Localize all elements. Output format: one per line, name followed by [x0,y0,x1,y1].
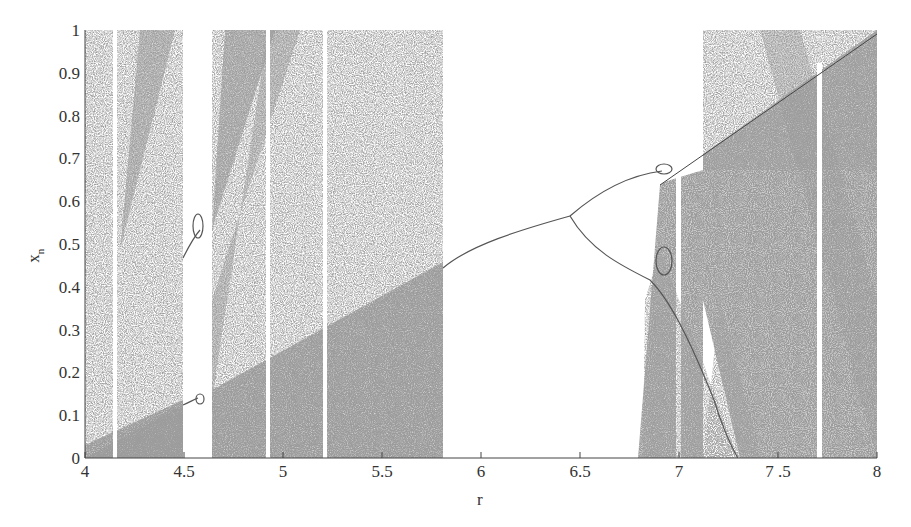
y-tick-label: 0.4 [59,279,80,296]
y-tick-label: 0.7 [59,150,80,167]
y-axis-label: xn [24,249,45,263]
x-tick-label: 5.5 [371,463,392,480]
x-tick-label: 8 [873,463,882,480]
y-tick-label: 0.3 [59,322,80,339]
x-tick-label: 6 [477,463,486,480]
y-tick-label: 0.8 [59,108,80,125]
x-tick-label: 5 [279,463,288,480]
plot-area [85,30,877,458]
y-tick-label: 0 [72,450,81,467]
x-tick-label: 4 [81,463,90,480]
chaotic-band-4-to-4.5 [85,30,183,458]
y-tick-label: 1 [72,22,81,39]
x-axis-label: r [477,490,483,510]
x-tick-label: 6.5 [569,463,590,480]
y-tick-label: 0.9 [59,65,80,82]
y-tick-label: 0.2 [59,364,80,381]
x-tick-label: 4.5 [173,463,194,480]
y-tick-label: 0.5 [59,236,80,253]
bifurcation-chart [0,0,911,527]
x-tick-label: 7 .5 [765,463,791,480]
y-tick-label: 0.6 [59,193,80,210]
y-tick-label: 0.1 [59,407,80,424]
chaotic-band-4.65-to-5.83 [212,30,443,458]
x-tick-label: 7 [675,463,684,480]
